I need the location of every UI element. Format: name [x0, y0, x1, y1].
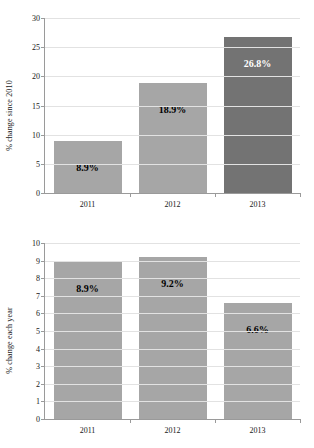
clipped-title-artifact	[150, 0, 210, 6]
y-axis-title-top: % change since 2010	[2, 8, 16, 222]
gridline	[45, 401, 300, 402]
x-axis-label-2012: 2012	[165, 426, 181, 435]
gridline	[45, 76, 300, 77]
gridline	[45, 135, 300, 136]
x-axis-label-2013: 2013	[250, 200, 266, 209]
y-axis-tick-label: 0	[36, 189, 45, 198]
gridline	[45, 419, 300, 420]
two-panel-bar-chart-figure: % change since 2010 8.9%18.9%26.8% 05101…	[0, 0, 314, 448]
y-axis-tick-label: 8	[36, 274, 45, 283]
gridline	[45, 243, 300, 244]
gridline	[45, 106, 300, 107]
y-axis-tick-label: 9	[36, 256, 45, 265]
x-axis-label-2011: 2011	[80, 426, 96, 435]
gridline	[45, 384, 300, 385]
y-axis-tick-label: 7	[36, 291, 45, 300]
bar-value-label: 8.9%	[54, 283, 122, 294]
gridline	[45, 47, 300, 48]
gridline	[45, 349, 300, 350]
x-tick-mark	[215, 419, 216, 423]
x-axis-label-2011: 2011	[80, 200, 96, 209]
gridline	[45, 261, 300, 262]
y-axis-tick-label: 5	[36, 327, 45, 336]
plot-area-bottom: 8.9%9.2%6.6% 012345678910201120122013	[44, 243, 300, 420]
y-axis-tick-label: 10	[32, 130, 45, 139]
y-axis-tick-label: 5	[36, 159, 45, 168]
x-axis-label-2013: 2013	[250, 426, 266, 435]
chart-panel-annual-change: % change each year 8.9%9.2%6.6% 01234567…	[0, 233, 314, 448]
chart-panel-cumulative-change: % change since 2010 8.9%18.9%26.8% 05101…	[0, 8, 314, 222]
y-axis-tick-label: 10	[32, 239, 45, 248]
bar-rect[interactable]	[139, 83, 207, 193]
bar-value-label: 9.2%	[139, 278, 207, 289]
x-tick-mark	[130, 193, 131, 197]
gridline	[45, 296, 300, 297]
y-axis-tick-label: 15	[32, 101, 45, 110]
y-axis-tick-label: 30	[32, 14, 45, 23]
bar-value-label: 6.6%	[224, 324, 292, 335]
y-axis-tick-label: 3	[36, 362, 45, 371]
gridline	[45, 278, 300, 279]
y-axis-title-bottom-text: % change each year	[5, 307, 14, 373]
x-tick-mark	[300, 193, 301, 197]
plot-area-top: 8.9%18.9%26.8% 051015202530201120122013	[44, 18, 300, 194]
y-axis-tick-label: 0	[36, 415, 45, 424]
gridline	[45, 193, 300, 194]
y-axis-tick-label: 20	[32, 72, 45, 81]
gridline	[45, 331, 300, 332]
x-tick-mark	[215, 193, 216, 197]
y-axis-tick-label: 25	[32, 43, 45, 52]
y-axis-title-top-text: % change since 2010	[5, 80, 14, 151]
gridline	[45, 313, 300, 314]
y-axis-tick-label: 4	[36, 344, 45, 353]
y-axis-tick-label: 1	[36, 397, 45, 406]
gridline	[45, 164, 300, 165]
gridline	[45, 366, 300, 367]
y-axis-title-bottom: % change each year	[2, 233, 16, 448]
y-axis-tick-label: 6	[36, 309, 45, 318]
x-tick-mark	[300, 419, 301, 423]
x-axis-label-2012: 2012	[165, 200, 181, 209]
x-tick-mark	[130, 419, 131, 423]
y-axis-tick-label: 2	[36, 379, 45, 388]
bar-value-label: 26.8%	[224, 58, 292, 69]
gridline	[45, 18, 300, 19]
